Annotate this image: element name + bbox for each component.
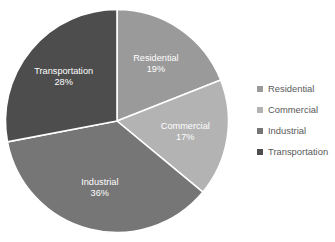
chart-legend: ResidentialCommercialIndustrialTransport… [257,78,335,162]
legend-swatch-icon [257,128,263,134]
pie-chart-svg: Residential19%Commercial17%Industrial36%… [0,0,240,242]
legend-swatch-icon [257,149,263,155]
legend-item-label: Commercial [268,105,318,114]
legend-item-label: Industrial [268,126,306,135]
pie-slice-label-value: 17% [176,132,194,142]
legend-swatch-icon [257,107,263,113]
pie-slice-label-name: Industrial [81,177,118,187]
pie-slice-label-value: 19% [147,64,165,74]
legend-item[interactable]: Residential [257,78,335,99]
legend-item[interactable]: Industrial [257,120,335,141]
pie-slice-label-name: Residential [133,53,178,63]
pie-slice-label-value: 36% [91,188,109,198]
legend-item-label: Residential [268,84,314,93]
legend-item[interactable]: Transportation [257,141,335,162]
pie-slice-label-name: Transportation [34,66,93,76]
legend-item[interactable]: Commercial [257,99,335,120]
legend-swatch-icon [257,86,263,92]
pie-slice-label-name: Commercial [161,121,210,131]
pie-chart-plot-area: Residential19%Commercial17%Industrial36%… [0,0,240,242]
pie-slice-label-value: 28% [55,77,73,87]
pie-chart-figure: Residential19%Commercial17%Industrial36%… [0,0,335,242]
legend-item-label: Transportation [268,147,328,156]
